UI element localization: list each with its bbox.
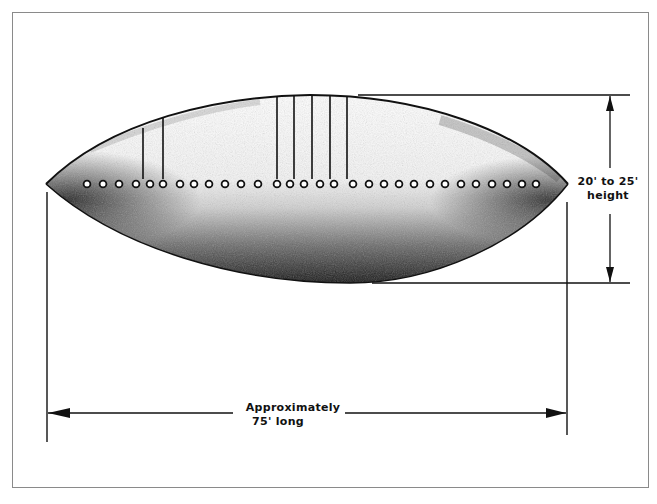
length-value: 75' long [238, 415, 348, 429]
hull [40, 90, 575, 290]
height-label: 20' to 25' height [573, 175, 643, 203]
length-label: Approximately 75' long [238, 401, 348, 429]
length-qualifier: Approximately [238, 401, 348, 415]
arrowhead-up-icon [606, 96, 614, 111]
arrowhead-right-icon [546, 408, 566, 418]
arrowhead-down-icon [606, 267, 614, 282]
height-value: 20' to 25' [573, 175, 643, 189]
height-caption: height [573, 189, 643, 203]
arrowhead-left-icon [48, 408, 70, 418]
